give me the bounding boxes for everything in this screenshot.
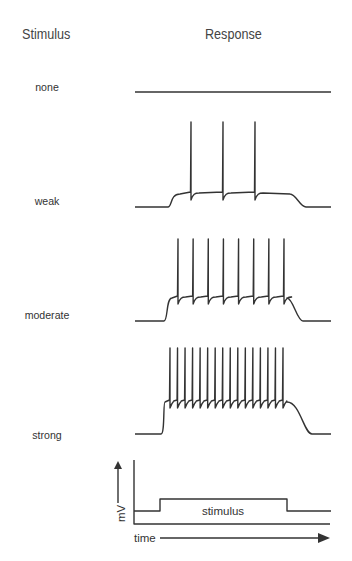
response-trace-strong xyxy=(135,348,331,434)
mv-arrowhead-icon xyxy=(114,461,122,469)
legend-x-axis-label: time xyxy=(134,532,156,544)
legend-stimulus-label: stimulus xyxy=(202,505,244,517)
legend-y-axis-label: mV xyxy=(115,504,127,522)
legend-diagram xyxy=(114,460,331,543)
response-trace-weak xyxy=(135,122,331,207)
time-arrowhead-icon xyxy=(318,533,330,543)
response-trace-moderate xyxy=(135,239,331,321)
